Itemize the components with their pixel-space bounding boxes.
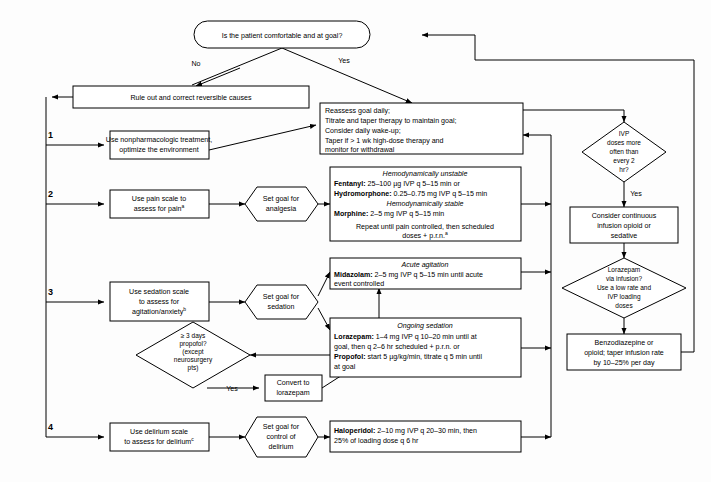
- ivp-line-0: IVP: [619, 130, 629, 137]
- node-reassess-line-2: Consider daily wake-up;: [325, 127, 401, 135]
- node-start-label: Is the patient comfortable and at goal?: [222, 32, 343, 40]
- edge-start-no: [192, 48, 282, 85]
- node-lorazepam-decision[interactable]: Lorazepam via infusion? Use a low rate a…: [562, 258, 686, 318]
- taper-line-2: by 10–25% per day: [593, 359, 655, 367]
- ongoing-lorazepam: Lorazepam: 1–4 mg IVP q 10–20 min until …: [334, 333, 477, 341]
- edge-start-no-head: [196, 68, 240, 86]
- node-acute-agitation[interactable]: Acute agitation Midazolam: 2–5 mg IVP q …: [330, 258, 521, 289]
- node-step4-line-0: Use delirium scale: [130, 428, 188, 436]
- lorazepam-line-3: IVP loading: [607, 293, 641, 301]
- node-goal-sedation-line-1: sedation: [268, 303, 295, 311]
- node-reassess-line-0: Reassess goal daily;: [325, 107, 390, 115]
- node-step1-line-1: optimize the environment: [119, 146, 198, 154]
- node-step2-line-1: assess for paina: [134, 203, 185, 213]
- delirium-haloperidol: Haloperidol: 2–10 mg IVP q 20–30 min, th…: [334, 427, 477, 435]
- edge-label-yes-top: Yes: [338, 57, 350, 65]
- node-reassess-line-3: Taper if > 1 wk high-dose therapy and: [325, 137, 444, 145]
- node-step4[interactable]: Use delirium scale to assess for deliriu…: [110, 423, 209, 451]
- node-taper[interactable]: Benzodiazepine or opioid; taper infusion…: [567, 334, 681, 370]
- step-number-2: 2: [48, 189, 53, 199]
- edge-goalsed-ongoing: [318, 308, 330, 330]
- step-number-3: 3: [48, 287, 53, 297]
- analgesia-heading-unstable: Hemodynamically unstable: [383, 170, 468, 178]
- node-step4-line-1: to assess for deliriumc: [124, 436, 194, 446]
- edge-right-collector: [523, 135, 551, 437]
- node-goal-delirium[interactable]: Set goal for control of delirium: [245, 417, 318, 457]
- infusion-line-1: infusion opioid or: [597, 222, 651, 230]
- ongoing-heading: Ongoing sedation: [397, 322, 453, 330]
- propofol-line-1: propofol?: [179, 340, 206, 348]
- convert-line-0: Convert to: [277, 379, 310, 387]
- propofol-line-2: (except: [182, 348, 204, 356]
- analgesia-fentanyl: Fentanyl: 25–100 µg IVP q 5–15 min or: [334, 180, 460, 188]
- infusion-line-0: Consider continuous: [592, 212, 657, 220]
- node-reassess-line-1: Titrate and taper therapy to maintain go…: [325, 117, 456, 125]
- node-rule-out-label: Rule out and correct reversible causes: [130, 94, 252, 102]
- infusion-line-2: sedative: [611, 232, 637, 240]
- step-number-4: 4: [48, 422, 53, 432]
- node-ivp-decision[interactable]: IVP doses more often than every 2 hr?: [582, 122, 666, 182]
- node-rule-out[interactable]: Rule out and correct reversible causes: [73, 86, 309, 108]
- node-goal-analgesia-line-0: Set goal for: [263, 195, 300, 203]
- node-goal-sedation[interactable]: Set goal for sedation: [245, 285, 318, 319]
- ivp-line-3: every 2: [613, 157, 635, 165]
- analgesia-doses-line: doses + p.r.n.a: [402, 230, 448, 240]
- node-convert[interactable]: Convert to lorazepam: [265, 375, 322, 401]
- goal-delirium-line-2: delirium: [269, 443, 294, 451]
- node-ongoing-sedation[interactable]: Ongoing sedation Lorazepam: 1–4 mg IVP q…: [330, 318, 521, 377]
- flowchart-page: Is the patient comfortable and at goal? …: [0, 0, 711, 482]
- propofol-line-4: pts): [188, 364, 199, 372]
- node-step2[interactable]: Use pain scale to assess for paina: [110, 190, 209, 218]
- node-propofol-decision[interactable]: ≥ 3 days propofol? (except neurosurgery …: [136, 322, 250, 388]
- node-consider-infusion[interactable]: Consider continuous infusion opioid or s…: [570, 207, 678, 243]
- node-step3[interactable]: Use sedation scale to assess for agitati…: [110, 282, 209, 321]
- node-step1-line-0: Use nonpharmacologic treatment,: [106, 136, 212, 144]
- edge-label-yes-propofol: Yes: [226, 385, 238, 393]
- node-step3-line-0: Use sedation scale: [129, 288, 189, 296]
- edge-reassess-ivp: [523, 110, 624, 122]
- edge-goalsed-acute: [318, 272, 330, 296]
- lorazepam-line-1: via infusion?: [606, 275, 643, 282]
- lorazepam-line-4: doses: [615, 302, 633, 309]
- convert-line-1: lorazepam: [276, 389, 309, 397]
- propofol-line-0: ≥ 3 days: [181, 332, 206, 340]
- node-reassess[interactable]: Reassess goal daily; Titrate and taper t…: [320, 103, 523, 154]
- analgesia-morphine: Morphine: 2–5 mg IVP q 5–15 min: [334, 210, 444, 218]
- lorazepam-line-2: Use a low rate and: [597, 284, 652, 291]
- node-step1[interactable]: Use nonpharmacologic treatment, optimize…: [106, 131, 212, 159]
- step-number-1: 1: [48, 130, 53, 140]
- node-reassess-line-4: monitor for withdrawal: [325, 146, 395, 154]
- goal-delirium-line-1: control of: [266, 433, 295, 441]
- node-goal-analgesia-line-1: analgesia: [266, 205, 296, 213]
- node-delirium-box[interactable]: Haloperidol: 2–10 mg IVP q 20–30 min, th…: [330, 421, 521, 452]
- analgesia-heading-stable: Hemodynamically stable: [387, 200, 464, 208]
- delirium-loading-line: 25% of loading dose q 6 hr: [334, 437, 419, 445]
- node-analgesia-box[interactable]: Hemodynamically unstable Fentanyl: 25–10…: [330, 167, 521, 241]
- lorazepam-line-0: Lorazepam: [608, 266, 641, 274]
- node-goal-analgesia[interactable]: Set goal for analgesia: [245, 187, 318, 221]
- ivp-line-4: hr?: [619, 166, 629, 173]
- taper-line-1: opioid; taper infusion rate: [584, 349, 664, 357]
- acute-midazolam: Midazolam: 2–5 mg IVP q 5–15 min until a…: [334, 271, 483, 279]
- ongoing-propofol: Propofol: start 5 µg/kg/min, titrate q 5…: [334, 353, 482, 361]
- goal-delirium-line-0: Set goal for: [263, 423, 300, 431]
- node-step2-line-0: Use pain scale to: [132, 195, 186, 203]
- ivp-line-2: often than: [610, 148, 639, 155]
- node-step3-line-1: to assess for: [139, 298, 180, 306]
- node-step3-line-2: agitation/anxietyb: [132, 306, 186, 316]
- ongoing-goal-line: goal, then q 2–6 hr scheduled + p.r.n. o…: [334, 343, 460, 351]
- edge-label-no: No: [191, 60, 200, 68]
- acute-event-line: event controlled: [334, 280, 384, 288]
- flowchart-svg: Is the patient comfortable and at goal? …: [0, 0, 711, 482]
- taper-line-0: Benzodiazepine or: [595, 339, 654, 347]
- ivp-line-1: doses more: [607, 139, 641, 146]
- ongoing-atgoal-line: at goal: [334, 363, 356, 371]
- edge-step1-reassess: [209, 125, 316, 150]
- node-start[interactable]: Is the patient comfortable and at goal?: [194, 21, 370, 48]
- propofol-line-3: neurosurgery: [174, 356, 213, 364]
- acute-heading: Acute agitation: [401, 261, 449, 269]
- analgesia-repeat-line: Repeat until pain controlled, then sched…: [356, 223, 494, 231]
- edge-label-yes-ivp: Yes: [630, 190, 642, 198]
- node-goal-sedation-line-0: Set goal for: [263, 293, 300, 301]
- analgesia-hydromorphone: Hydromorphone: 0.25–0.75 mg IVP q 5–15 m…: [334, 190, 487, 198]
